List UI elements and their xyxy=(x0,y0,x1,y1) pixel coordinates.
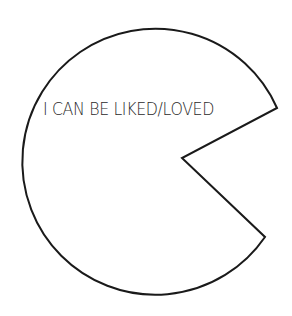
pacman-shape xyxy=(22,29,277,295)
diagram-label: I CAN BE LIKED/LOVED xyxy=(43,99,214,119)
pacman-diagram xyxy=(0,0,292,316)
